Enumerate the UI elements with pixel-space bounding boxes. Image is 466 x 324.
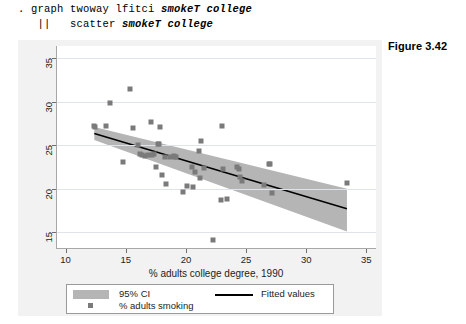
scatter-point (190, 185, 195, 190)
stata-command-echo: . graph twoway lfitci smokeT college || … (0, 0, 466, 32)
scatter-point (157, 142, 162, 147)
command-line-1-keywords: . graph twoway lfitci (18, 3, 161, 15)
plot-svg (57, 46, 376, 248)
legend-swatch-ci (73, 290, 109, 299)
x-tick-25 (246, 249, 247, 253)
scatter-point (221, 166, 226, 171)
scatter-point (218, 198, 223, 203)
scatter-point (198, 176, 203, 181)
scatter-point (224, 197, 229, 202)
chart-legend: 95% CI Fitted values % adults smoking (66, 284, 334, 314)
scatter-point (219, 124, 224, 129)
x-tick-15 (126, 249, 127, 253)
x-tick-label-15: 15 (120, 254, 131, 265)
scatter-point (174, 155, 179, 160)
confidence-interval-band (94, 127, 347, 231)
scatter-point (196, 149, 201, 154)
scatter-point (193, 170, 198, 175)
gridline-y-30 (57, 102, 376, 103)
y-tick-label-30: 30 (44, 102, 55, 113)
y-tick-label-20: 20 (44, 189, 55, 200)
scatter-point (153, 165, 158, 170)
scatter-point (104, 124, 109, 129)
y-tick-label-15: 15 (44, 232, 55, 243)
plot-inner (57, 46, 376, 248)
x-tick-35 (366, 249, 367, 253)
scatter-point (344, 180, 349, 185)
scatter-point (128, 86, 133, 91)
legend-label-fitted-values: Fitted values (261, 288, 315, 299)
command-line-1-variables: smokeT college (161, 3, 252, 15)
stata-graph: 1520253035 101520253035 % adults college… (18, 40, 382, 316)
legend-label-points: % adults smoking (119, 300, 193, 311)
scatter-point (270, 191, 275, 196)
gridline-y-35 (57, 58, 376, 59)
scatter-point (181, 190, 186, 195)
scatter-point (148, 119, 153, 124)
scatter-point (159, 172, 164, 177)
scatter-point (93, 124, 98, 129)
command-line-2-keywords: || scatter (18, 18, 122, 30)
legend-swatch-fitted-values (215, 294, 253, 296)
x-axis-line (56, 248, 376, 249)
command-line-1: . graph twoway lfitci smokeT college (0, 0, 466, 17)
legend-label-ci: 95% CI (119, 288, 150, 299)
scatter-point (152, 151, 157, 156)
gridline-y-20 (57, 189, 376, 190)
command-line-2: || scatter smokeT college (0, 17, 466, 32)
x-tick-label-35: 35 (361, 254, 372, 265)
scatter-point (201, 165, 206, 170)
x-tick-label-20: 20 (181, 254, 192, 265)
scatter-point (121, 159, 126, 164)
scatter-point (135, 143, 140, 148)
scatter-point (130, 125, 135, 130)
command-line-2-variables: smokeT college (122, 18, 213, 30)
x-tick-10 (66, 249, 67, 253)
scatter-point (164, 181, 169, 186)
scatter-point (261, 183, 266, 188)
y-tick-label-35: 35 (44, 58, 55, 69)
scatter-point (267, 162, 272, 167)
x-tick-20 (186, 249, 187, 253)
scatter-point (199, 138, 204, 143)
plot-outer: 1520253035 101520253035 % adults college… (18, 40, 382, 268)
scatter-point (236, 166, 241, 171)
scatter-point (107, 101, 112, 106)
gridline-y-25 (57, 145, 376, 146)
scatter-point (211, 238, 216, 243)
x-tick-label-30: 30 (301, 254, 312, 265)
figure-caption: Figure 3.42 (388, 40, 447, 52)
gridline-y-15 (57, 232, 376, 233)
legend-swatch-points (88, 303, 93, 308)
x-tick-30 (306, 249, 307, 253)
scatter-point (240, 178, 245, 183)
plot-panel: 1520253035 (56, 46, 376, 248)
x-axis-title: % adults college degree, 1990 (56, 268, 376, 279)
x-tick-label-10: 10 (60, 254, 71, 265)
scatter-point (158, 124, 163, 129)
y-tick-label-25: 25 (44, 145, 55, 156)
x-tick-label-25: 25 (241, 254, 252, 265)
scatter-point (184, 184, 189, 189)
